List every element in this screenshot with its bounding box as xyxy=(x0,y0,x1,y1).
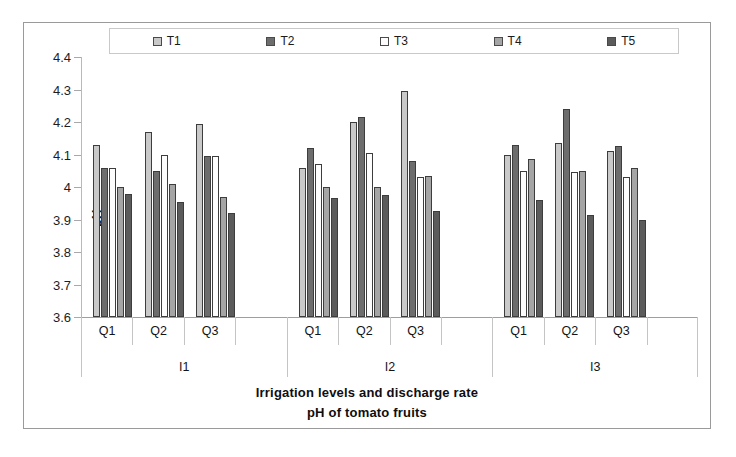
bar-i1-q1-t4[interactable] xyxy=(117,187,124,317)
bar-group-i2-q2 xyxy=(350,57,390,317)
y-axis-tick-label: 3.6 xyxy=(53,310,71,325)
legend-item-t5[interactable]: T5 xyxy=(607,35,635,47)
bar-i2-q3-t2[interactable] xyxy=(409,161,416,317)
bar-i2-q2-t5[interactable] xyxy=(382,195,389,317)
category-tick-i1-q2: Q2 xyxy=(132,317,183,345)
category-label: Q1 xyxy=(305,324,322,338)
bar-i2-q2-t2[interactable] xyxy=(358,117,365,317)
category-tick-spacer xyxy=(647,317,698,345)
bar-i2-q2-t1[interactable] xyxy=(350,122,357,317)
chart-caption: pH of tomato fruits xyxy=(24,405,710,420)
category-label: Q2 xyxy=(150,324,167,338)
bar-group-i2-q1 xyxy=(299,57,339,317)
bar-i3-q3-t3[interactable] xyxy=(623,177,630,317)
bar-i3-q3-t1[interactable] xyxy=(607,151,614,317)
category-label: Q2 xyxy=(562,324,579,338)
bar-i2-q2-t3[interactable] xyxy=(366,153,373,317)
y-axis-tick xyxy=(74,220,81,221)
bar-i3-q2-t5[interactable] xyxy=(587,215,594,317)
bar-i3-q1-t1[interactable] xyxy=(504,155,511,318)
bar-group-i1-q2 xyxy=(145,57,185,317)
legend-label: T2 xyxy=(280,35,294,47)
legend-label: T5 xyxy=(621,35,635,47)
legend-item-t1[interactable]: T1 xyxy=(153,35,181,47)
bar-i3-q2-t2[interactable] xyxy=(563,109,570,317)
category-tick-i3-q2: Q2 xyxy=(544,317,595,345)
bar-group-i3-q3 xyxy=(607,57,647,317)
y-axis-tick xyxy=(74,90,81,91)
y-axis-tick xyxy=(74,57,81,58)
bar-i2-q2-t4[interactable] xyxy=(374,187,381,317)
y-axis-tick xyxy=(74,285,81,286)
bar-i3-q3-t5[interactable] xyxy=(639,220,646,318)
legend-item-t3[interactable]: T3 xyxy=(380,35,408,47)
bar-i3-q2-t4[interactable] xyxy=(579,171,586,317)
bars-layer xyxy=(82,57,698,317)
y-axis-tick-label: 3.7 xyxy=(53,277,71,292)
bar-i3-q2-t1[interactable] xyxy=(555,143,562,317)
bar-i1-q3-t5[interactable] xyxy=(228,213,235,317)
bar-i2-q3-t3[interactable] xyxy=(417,177,424,317)
bar-i1-q3-t4[interactable] xyxy=(220,197,227,317)
bar-i3-q1-t3[interactable] xyxy=(520,171,527,317)
supergroup-label-cell-i2: I2 xyxy=(287,345,493,377)
bar-i1-q1-t2[interactable] xyxy=(101,168,108,318)
category-tick-i2-q1: Q1 xyxy=(287,317,338,345)
bar-i1-q2-t4[interactable] xyxy=(169,184,176,317)
bar-i2-q3-t1[interactable] xyxy=(401,91,408,317)
y-axis-tick xyxy=(74,155,81,156)
chart-legend: T1T2T3T4T5 xyxy=(109,28,679,54)
bar-i2-q3-t5[interactable] xyxy=(433,211,440,317)
y-axis-tick xyxy=(74,317,81,318)
category-tick-i3-q1: Q1 xyxy=(492,317,543,345)
y-axis-tick-label: 4.2 xyxy=(53,115,71,130)
y-axis-tick-label: 3.9 xyxy=(53,212,71,227)
category-label: Q3 xyxy=(202,324,219,338)
bar-group-i3-q1 xyxy=(504,57,544,317)
bar-i2-q1-t3[interactable] xyxy=(315,164,322,317)
bar-i3-q3-t2[interactable] xyxy=(615,146,622,317)
category-tick-i3-q3: Q3 xyxy=(595,317,646,345)
bar-i2-q1-t5[interactable] xyxy=(331,198,338,317)
bar-i1-q3-t2[interactable] xyxy=(204,156,211,317)
category-label: Q3 xyxy=(407,324,424,338)
legend-swatch-icon xyxy=(266,37,275,46)
legend-item-t4[interactable]: T4 xyxy=(494,35,522,47)
legend-swatch-icon xyxy=(153,37,162,46)
bar-group-i3-q2 xyxy=(555,57,595,317)
bar-i1-q1-t3[interactable] xyxy=(109,168,116,318)
legend-swatch-icon xyxy=(494,37,503,46)
category-tick-i2-q3: Q3 xyxy=(390,317,441,345)
category-tick-spacer xyxy=(235,317,286,345)
bar-i1-q1-t5[interactable] xyxy=(125,194,132,318)
category-label: Q3 xyxy=(613,324,630,338)
bar-i2-q1-t1[interactable] xyxy=(299,168,306,318)
legend-item-t2[interactable]: T2 xyxy=(266,35,294,47)
bar-i3-q3-t4[interactable] xyxy=(631,168,638,318)
plot-area: pH 4.44.34.24.143.93.83.73.6 xyxy=(81,57,698,317)
supergroup-label-cell-i1: I1 xyxy=(81,345,287,377)
bar-i3-q1-t2[interactable] xyxy=(512,145,519,317)
bar-i1-q3-t3[interactable] xyxy=(212,156,219,317)
bar-i1-q2-t3[interactable] xyxy=(161,155,168,318)
bar-i3-q1-t4[interactable] xyxy=(528,159,535,317)
bar-i1-q3-t1[interactable] xyxy=(196,124,203,317)
bar-i1-q2-t2[interactable] xyxy=(153,171,160,317)
category-tick-spacer xyxy=(441,317,492,345)
bar-i2-q3-t4[interactable] xyxy=(425,176,432,317)
category-axis-irrigation: I1I2I3 xyxy=(81,345,698,377)
bar-i1-q2-t1[interactable] xyxy=(145,132,152,317)
category-label: Q1 xyxy=(99,324,116,338)
y-axis-tick xyxy=(74,187,81,188)
bar-i1-q2-t5[interactable] xyxy=(177,202,184,317)
bar-i1-q1-t1[interactable] xyxy=(93,145,100,317)
bar-i2-q1-t2[interactable] xyxy=(307,148,314,317)
legend-label: T1 xyxy=(167,35,181,47)
bar-group-i1-q1 xyxy=(93,57,133,317)
bar-i3-q2-t3[interactable] xyxy=(571,172,578,317)
y-axis-tick-label: 4.4 xyxy=(53,50,71,65)
bar-supergroup-i2 xyxy=(287,57,492,317)
bar-i3-q1-t5[interactable] xyxy=(536,200,543,317)
bar-i2-q1-t4[interactable] xyxy=(323,187,330,317)
x-axis-title: Irrigation levels and discharge rate xyxy=(24,385,710,400)
